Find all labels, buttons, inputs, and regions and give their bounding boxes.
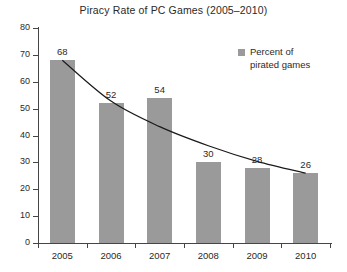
bar-value-label: 28 <box>252 154 263 165</box>
y-tick-label: 0 <box>25 237 30 247</box>
legend: Percent of pirated games <box>238 46 310 71</box>
bar-value-label: 68 <box>57 46 68 57</box>
x-axis-label: 2005 <box>52 250 73 261</box>
y-tick-label: 70 <box>20 49 30 59</box>
x-tick <box>184 244 185 248</box>
y-tick-label: 30 <box>20 156 30 166</box>
bar: 30 <box>196 162 221 243</box>
bar-value-label: 26 <box>300 159 311 170</box>
chart-title: Piracy Rate of PC Games (2005–2010) <box>0 4 347 16</box>
x-tick <box>87 244 88 248</box>
bar-value-label: 30 <box>203 148 214 159</box>
y-tick-label: 20 <box>20 183 30 193</box>
x-tick <box>330 244 331 248</box>
x-axis-line <box>38 243 332 244</box>
bar-value-label: 54 <box>154 84 165 95</box>
x-tick <box>135 244 136 248</box>
y-tick-label: 50 <box>20 103 30 113</box>
x-axis-label: 2007 <box>149 250 170 261</box>
y-tick-label: 10 <box>20 210 30 220</box>
bar: 54 <box>147 98 172 243</box>
x-tick <box>281 244 282 248</box>
bar: 28 <box>245 168 270 243</box>
chart-container: Piracy Rate of PC Games (2005–2010) 0102… <box>0 0 347 272</box>
x-axis-label: 2010 <box>295 250 316 261</box>
y-tick-label: 80 <box>20 22 30 32</box>
x-tick <box>233 244 234 248</box>
legend-swatch-icon <box>238 49 245 56</box>
bar: 52 <box>99 103 124 243</box>
y-tick-label: 40 <box>20 130 30 140</box>
x-axis-label: 2009 <box>246 250 267 261</box>
bar: 68 <box>50 60 75 243</box>
bar: 26 <box>293 173 318 243</box>
bar-value-label: 52 <box>106 89 117 100</box>
x-tick <box>38 244 39 248</box>
x-axis-label: 2006 <box>100 250 121 261</box>
x-axis-label: 2008 <box>198 250 219 261</box>
legend-label: Percent of pirated games <box>250 46 310 71</box>
y-tick-label: 60 <box>20 76 30 86</box>
